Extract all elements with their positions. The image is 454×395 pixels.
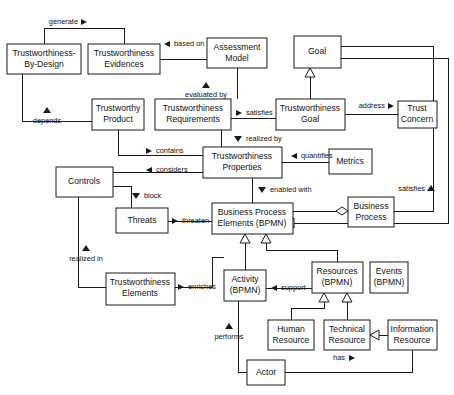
edge-label-enabled-with: enabled with bbox=[270, 185, 312, 194]
node-business-process-elements[interactable]: Business Process Elements (BPMN) bbox=[212, 203, 293, 234]
node-activity-bpmn[interactable]: Activity (BPMN) bbox=[224, 270, 266, 301]
node-label-technical-resource-line1: Technical bbox=[329, 324, 365, 334]
node-label-trustworthiness-properties-line1: Trustworthiness bbox=[212, 151, 272, 161]
node-label-trustworthiness-by-design-line1: Trustworthiness- bbox=[12, 48, 75, 58]
node-business-process[interactable]: Business Process bbox=[348, 197, 394, 227]
node-label-activity-line1: Activity bbox=[231, 274, 259, 284]
node-label-events-line1: Events bbox=[376, 266, 402, 276]
node-information-resource[interactable]: Information Resource bbox=[388, 320, 437, 350]
node-label-trustworthiness-goal-line2: Goal bbox=[301, 114, 319, 124]
node-label-resources-line2: (BPMN) bbox=[322, 277, 353, 287]
node-label-business-process-line1: Business bbox=[354, 201, 389, 211]
arrow-marker-realized-by bbox=[234, 136, 242, 142]
generalization-arrow-technical-resource bbox=[342, 293, 352, 302]
edge-label-enriches: enriches bbox=[188, 282, 216, 291]
arrow-marker-performs bbox=[225, 323, 233, 329]
edge-block bbox=[113, 186, 131, 208]
node-label-trustworthiness-goal-line1: Trustworthiness bbox=[280, 103, 340, 113]
generalization-arrow-resources bbox=[261, 234, 271, 243]
arrow-marker-threaten bbox=[172, 218, 178, 224]
arrow-marker-satisfies bbox=[236, 110, 242, 116]
edge-generate bbox=[44, 28, 124, 44]
edge-label-based-on: based on bbox=[174, 39, 204, 48]
node-trustworthiness-evidences[interactable]: Trustworthiness Evidences bbox=[88, 44, 160, 74]
arrow-marker-quantifies bbox=[291, 153, 297, 159]
node-label-resources-line1: Resources bbox=[316, 266, 357, 276]
node-events-bpmn[interactable]: Events (BPMN) bbox=[370, 262, 408, 293]
node-trustworthiness-goal[interactable]: Trustworthiness Goal bbox=[276, 99, 345, 130]
node-actor[interactable]: Actor bbox=[247, 360, 285, 385]
node-label-trustworthy-product-line2: Product bbox=[103, 114, 133, 124]
node-trustworthiness-by-design[interactable]: Trustworthiness- By-Design bbox=[7, 44, 81, 74]
arrow-marker-support bbox=[271, 285, 277, 291]
node-label-trustworthiness-properties-line2: Properties bbox=[222, 162, 261, 172]
node-label-information-resource-line1: Information bbox=[391, 324, 434, 334]
edge-label-considers: considers bbox=[156, 165, 188, 174]
edge-label-evaluated-by: evaluated by bbox=[185, 90, 227, 99]
node-label-technical-resource-line2: Resource bbox=[329, 335, 366, 345]
arrow-marker-depends bbox=[43, 107, 51, 113]
node-label-assessment-model-line1: Assessment bbox=[214, 42, 261, 52]
node-label-trust-concern-line2: Concern bbox=[401, 114, 434, 124]
generalization-arrow-information-resource bbox=[370, 330, 379, 340]
node-label-business-process-line2: Process bbox=[355, 212, 386, 222]
edge-hres-generalizes-resources bbox=[291, 301, 324, 320]
arrow-marker-block bbox=[132, 193, 140, 199]
edge-label-depends: depends bbox=[33, 116, 62, 125]
node-label-trustworthiness-elements-line2: Elements bbox=[122, 288, 158, 298]
node-label-goal: Goal bbox=[308, 46, 326, 56]
arrow-marker-enabled-with bbox=[258, 187, 266, 193]
node-label-information-resource-line2: Resource bbox=[394, 335, 431, 345]
generalization-arrow-goal bbox=[305, 68, 315, 77]
edge-realized-in bbox=[78, 197, 106, 287]
arrow-marker-enriches bbox=[178, 284, 184, 290]
node-trustworthy-product[interactable]: Trustworthy Product bbox=[92, 99, 144, 130]
uml-diagram-canvas: Trustworthiness- By-Design Trustworthine… bbox=[0, 0, 454, 395]
arrow-marker-contains bbox=[146, 148, 152, 154]
node-goal[interactable]: Goal bbox=[294, 36, 341, 68]
node-label-trustworthiness-requirements-line1: Trustworthiness bbox=[163, 103, 223, 113]
edge-label-realized-in: realized in bbox=[69, 254, 103, 263]
node-label-business-process-elements-line2: Elements (BPMN) bbox=[218, 218, 287, 228]
node-label-controls: Controls bbox=[68, 176, 100, 186]
node-threats[interactable]: Threats bbox=[116, 208, 168, 233]
node-label-trustworthiness-by-design-line2: By-Design bbox=[24, 59, 64, 69]
node-trustworthiness-properties[interactable]: Trustworthiness Properties bbox=[203, 147, 282, 178]
edge-label-satisfies-2: satisfies bbox=[398, 184, 425, 193]
edge-has bbox=[285, 350, 412, 372]
node-trustworthiness-requirements[interactable]: Trustworthiness Requirements bbox=[155, 99, 231, 130]
edge-label-satisfies: satisfies bbox=[246, 108, 273, 117]
node-technical-resource[interactable]: Technical Resource bbox=[324, 320, 370, 350]
node-human-resource[interactable]: Human Resource bbox=[268, 320, 314, 350]
node-resources-bpmn[interactable]: Resources (BPMN) bbox=[312, 262, 363, 293]
node-controls[interactable]: Controls bbox=[56, 167, 113, 197]
edge-label-contains: contains bbox=[156, 146, 184, 155]
node-label-human-resource-line1: Human bbox=[277, 324, 305, 334]
edge-label-quantifies: quantifies bbox=[301, 151, 333, 160]
edge-label-threaten: threaten bbox=[182, 216, 209, 225]
edge-label-support: support bbox=[281, 283, 306, 292]
generalization-arrow-activity bbox=[240, 234, 250, 243]
edge-depends bbox=[22, 74, 92, 121]
node-label-trustworthiness-evidences-line1: Trustworthiness bbox=[94, 48, 154, 58]
arrow-marker-evaluated-by bbox=[202, 82, 210, 88]
node-label-human-resource-line2: Resource bbox=[273, 335, 310, 345]
node-label-metrics: Metrics bbox=[336, 156, 364, 166]
node-trust-concern[interactable]: Trust Concern bbox=[398, 101, 437, 128]
node-metrics[interactable]: Metrics bbox=[329, 149, 372, 174]
node-label-actor: Actor bbox=[256, 367, 276, 377]
node-trustworthiness-elements[interactable]: Trustworthiness Elements bbox=[106, 273, 175, 305]
node-assessment-model[interactable]: Assessment Model bbox=[207, 38, 267, 68]
node-label-trustworthiness-elements-line1: Trustworthiness bbox=[110, 277, 170, 287]
arrow-marker-generate bbox=[81, 19, 87, 25]
node-label-activity-line2: (BPMN) bbox=[230, 285, 261, 295]
generalization-arrow-human-resource bbox=[319, 293, 329, 302]
arrow-marker-satisfies-2 bbox=[427, 185, 435, 191]
node-label-assessment-model-line2: Model bbox=[225, 53, 248, 63]
edge-resources-generalizes-bpe bbox=[266, 242, 337, 262]
edge-label-realized-by: realized by bbox=[246, 134, 282, 143]
edge-label-generate: generate bbox=[49, 17, 78, 26]
arrow-marker-realized-in bbox=[82, 245, 90, 251]
node-label-trustworthy-product-line1: Trustworthy bbox=[96, 103, 141, 113]
aggregation-diamond-business-process bbox=[336, 207, 348, 215]
